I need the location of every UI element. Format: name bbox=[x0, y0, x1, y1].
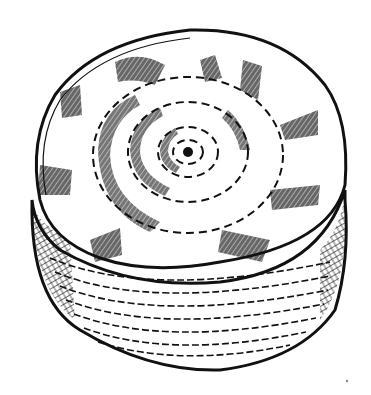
wheel-top-face bbox=[36, 30, 346, 268]
center-hole bbox=[183, 147, 193, 157]
buffing-wheel-drawing bbox=[0, 0, 371, 395]
illustration-canvas: buffing wheel bbox=[0, 0, 371, 395]
